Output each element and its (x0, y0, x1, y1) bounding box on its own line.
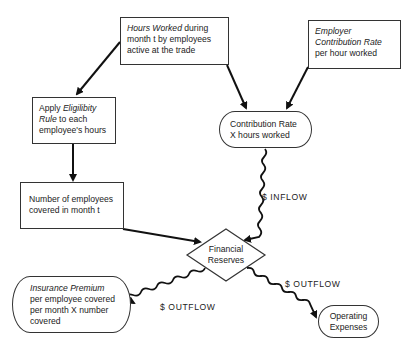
financial-reserves-line1: Financial (196, 244, 256, 255)
employer-rate-line1: Employer (315, 26, 394, 37)
apply-rule-italic: Eligilibity (63, 103, 96, 113)
employer-rate-box: Employer Contribution Rate per hour work… (308, 20, 401, 69)
outflow-left-label: $ OUTFLOW (160, 302, 216, 312)
arrow-hours-to-contribution (227, 65, 246, 108)
number-covered-box: Number of employees covered in month t (20, 182, 124, 229)
contribution-line1: Contribution Rate (230, 119, 311, 130)
inflow-label: $ INFLOW (262, 192, 307, 202)
apply-rule-plain: Apply (39, 103, 63, 113)
hours-worked-line1: during (182, 23, 208, 33)
wavy-outflow-left-arrow (125, 268, 205, 303)
wavy-outflow-right-arrow (247, 268, 316, 317)
insurance-line1: Insurance Premium (30, 283, 130, 294)
apply-rule-box: Apply Eligilibity Rule to each employee'… (32, 97, 116, 144)
hours-worked-italic: Hours Worked (127, 23, 182, 33)
operating-line1: Operating (319, 311, 378, 322)
hours-worked-line2: month t by employees (127, 34, 222, 45)
hours-worked-line3: active at the trade (127, 45, 222, 56)
arrow-number-to-reserves (123, 229, 200, 242)
number-covered-line1: Number of employees (29, 194, 117, 205)
apply-rule-line3: employee's hours (39, 125, 109, 136)
insurance-line4: covered (30, 316, 130, 327)
contribution-line2: X hours worked (230, 130, 311, 141)
employer-rate-line2: Contribution Rate (315, 37, 394, 48)
financial-reserves-label: Financial Reserves (196, 244, 256, 266)
insurance-line3: per month X number (30, 305, 130, 316)
insurance-premium-box: Insurance Premium per employee covered p… (12, 276, 131, 333)
arrow-hours-to-apply (77, 42, 120, 94)
financial-reserves-line2: Reserves (196, 255, 256, 266)
contribution-box: Contribution Rate X hours worked (219, 111, 312, 148)
outflow-right-label: $ OUTFLOW (285, 279, 341, 289)
arrow-employer-to-contribution (287, 67, 308, 108)
apply-rule-plain2: to each (57, 114, 88, 124)
apply-rule-italic2: Rule (39, 114, 57, 124)
number-covered-line2: covered in month t (29, 205, 117, 216)
hours-worked-box: Hours Worked during month t by employees… (120, 17, 229, 65)
operating-line2: Expenses (319, 322, 378, 333)
operating-expenses-box: Operating Expenses (318, 305, 379, 338)
insurance-line2: per employee covered (30, 294, 130, 305)
employer-rate-line3: per hour worked (315, 48, 394, 59)
